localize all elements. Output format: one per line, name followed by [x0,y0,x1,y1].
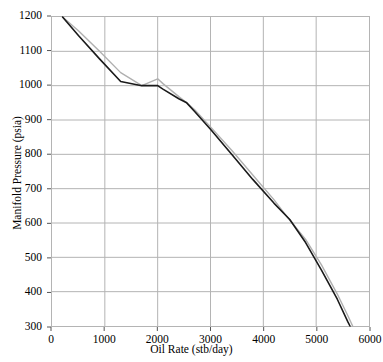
series-line-black-curve [63,17,350,326]
series-line-gray-curve [63,17,353,326]
y-tick-label: 400 [0,286,42,298]
data-series-layer [52,17,369,326]
plot-area [51,16,370,327]
y-tick-label: 1000 [0,79,42,91]
y-tick-label: 300 [0,321,42,333]
y-axis-title: Manifold Pressure (psia) [11,93,23,253]
y-tick-label: 1100 [0,45,42,57]
y-tick-label: 500 [0,252,42,264]
chart-figure: 300400500600700800900100011001200 010002… [0,0,383,362]
x-axis-title: Oil Rate (stb/day) [0,343,383,355]
y-tick-label: 1200 [0,10,42,22]
